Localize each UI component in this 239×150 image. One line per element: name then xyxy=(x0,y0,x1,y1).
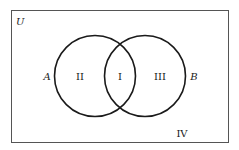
set-b-circle xyxy=(105,36,186,117)
set-a-label: A xyxy=(42,71,50,82)
set-a-circle xyxy=(55,36,136,117)
universe-label: U xyxy=(16,16,25,27)
venn-diagram: U A B II I III IV xyxy=(0,0,239,150)
region-b-only-label: III xyxy=(154,71,166,82)
region-intersection-label: I xyxy=(118,71,122,82)
region-outside-label: IV xyxy=(176,128,188,139)
set-b-label: B xyxy=(189,71,197,82)
region-a-only-label: II xyxy=(76,71,84,82)
